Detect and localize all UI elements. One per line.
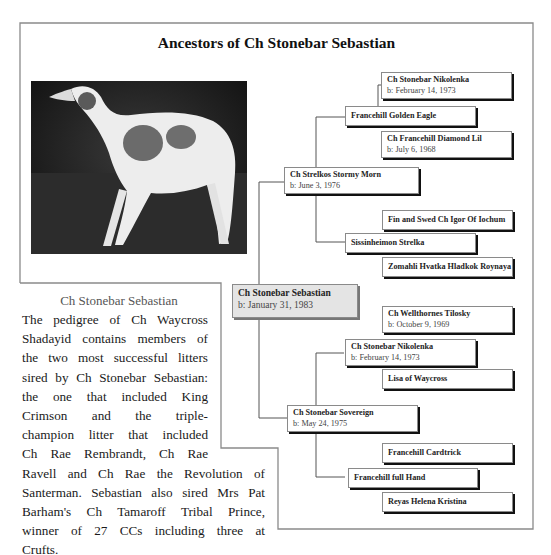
caption-line: Santerman. Sebastian also sired Mrs Pat <box>22 483 265 502</box>
dam-sire-born: b: February 14, 1973 <box>351 353 471 364</box>
caption-line: sired by Ch Stonebar Sebastian: <box>22 368 208 387</box>
pedigree-dd-dam: Reyas Helena Kristina <box>382 492 513 512</box>
ss-sire-name: Ch Stonebar Nikolenka <box>387 75 507 86</box>
pedigree-dam-dam: Francehill full Hand <box>348 468 478 488</box>
ds-dam-name: Lisa of Waycross <box>388 374 508 385</box>
sd-sire-name: Fin and Swed Ch Igor Of Iochum <box>388 215 508 226</box>
pedigree-sire-dam: Sissinheimon Strelka <box>345 233 476 253</box>
caption-line: The pedigree of Ch Waycross <box>22 310 208 329</box>
caption-line: winner of 27 CCs including three at <box>22 521 265 540</box>
dam-sire-name: Ch Stonebar Nikolenka <box>351 342 471 353</box>
pedigree-dam-sire: Ch Stonebar Nikolenka b: February 14, 19… <box>345 339 476 366</box>
sire-name: Ch Strelkos Stormy Morn <box>290 170 414 181</box>
caption-line: Shadayid contains members of <box>22 329 208 348</box>
dd-dam-name: Reyas Helena Kristina <box>388 497 508 508</box>
pedigree-ss-sire: Ch Stonebar Nikolenka b: February 14, 19… <box>381 72 512 99</box>
dam-dam-name: Francehill full Hand <box>354 473 473 484</box>
pedigree-ss-dam: Ch Francehill Diamond Lil b: July 6, 196… <box>381 131 512 158</box>
dam-born: b: May 24, 1975 <box>293 419 413 430</box>
caption-title: Ch Stonebar Sebastian <box>22 293 216 309</box>
caption-line: the two most successful litters <box>22 348 208 367</box>
sire-dam-name: Sissinheimon Strelka <box>351 238 471 249</box>
figure-title: Ancestors of Ch Stonebar Sebastian <box>20 34 533 52</box>
pedigree-dam: Ch Stonebar Sovereign b: May 24, 1975 <box>287 405 418 432</box>
ss-dam-born: b: July 6, 1968 <box>387 145 507 156</box>
sd-dam-name: Zomahli Hvatka Hladkok Roynaya <box>388 262 508 273</box>
caption-line: Barham's Ch Tamaroff Tribal Prince, <box>22 502 265 521</box>
caption-line: champion litter that included <box>22 425 208 444</box>
caption-body: The pedigree of Ch Waycross Shadayid con… <box>22 310 278 555</box>
ss-sire-born: b: February 14, 1973 <box>387 86 507 97</box>
caption-line: Crimson and the triple- <box>22 406 208 425</box>
sire-sire-name: Francehill Golden Eagle <box>351 111 471 122</box>
ds-sire-name: Ch Wellthornes Tilosky <box>388 309 508 320</box>
subject-name: Ch Stonebar Sebastian <box>238 287 353 299</box>
pedigree-ds-dam: Lisa of Waycross <box>382 369 513 389</box>
caption-line: Ch Rae Rembrandt, Ch Rae <box>22 444 208 463</box>
pedigree-ds-sire: Ch Wellthornes Tilosky b: October 9, 196… <box>382 306 513 333</box>
caption-line: the one that included King <box>22 387 208 406</box>
pedigree-dd-sire: Francehill Cardtrick <box>382 443 513 463</box>
caption-line: Crufts. <box>22 540 265 555</box>
ds-sire-born: b: October 9, 1969 <box>388 320 508 331</box>
sire-born: b: June 3, 1976 <box>290 181 414 192</box>
pedigree-sd-dam: Zomahli Hvatka Hladkok Roynaya <box>382 257 513 277</box>
dam-name: Ch Stonebar Sovereign <box>293 408 413 419</box>
borzoi-photo <box>31 81 247 254</box>
caption-line: Ravell and Ch Rae the Revolution of <box>22 464 265 483</box>
ss-dam-name: Ch Francehill Diamond Lil <box>387 134 507 145</box>
pedigree-sd-sire: Fin and Swed Ch Igor Of Iochum <box>382 210 513 230</box>
pedigree-sire-sire: Francehill Golden Eagle <box>345 106 476 126</box>
pedigree-sire: Ch Strelkos Stormy Morn b: June 3, 1976 <box>284 167 419 194</box>
dd-sire-name: Francehill Cardtrick <box>388 448 508 459</box>
